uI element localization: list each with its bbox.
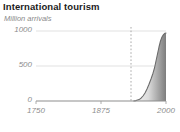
chart-card: International tourism Million arrivals — [0, 0, 180, 132]
ytick-label-0: 0 — [0, 95, 32, 104]
gridlines — [36, 31, 166, 66]
area-fill — [134, 33, 166, 101]
xtick-label-2000: 2000 — [147, 106, 180, 115]
ytick-label-1000: 1000 — [0, 25, 32, 34]
xtick-label-1750: 1750 — [17, 106, 55, 115]
ytick-label-500: 500 — [0, 60, 32, 69]
xtick-label-1875: 1875 — [82, 106, 120, 115]
